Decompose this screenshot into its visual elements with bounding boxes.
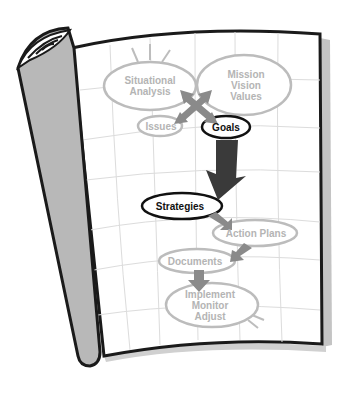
label-line: Implement bbox=[185, 289, 235, 300]
label-line: Adjust bbox=[185, 311, 235, 322]
label-line: Monitor bbox=[185, 300, 235, 311]
label-line: Situational bbox=[124, 75, 175, 86]
label-line: Mission bbox=[227, 69, 264, 80]
label-issues: Issues bbox=[145, 121, 176, 132]
label-action-plans: Action Plans bbox=[226, 228, 287, 239]
label-situational-analysis: Situational Analysis bbox=[124, 75, 175, 97]
label-line: Analysis bbox=[124, 86, 175, 97]
label-strategies: Strategies bbox=[156, 201, 204, 212]
label-line: Vision bbox=[227, 80, 264, 91]
label-mission-vision-values: Mission Vision Values bbox=[227, 69, 264, 102]
label-goals: Goals bbox=[212, 122, 240, 133]
label-implement-monitor-adjust: Implement Monitor Adjust bbox=[185, 289, 235, 322]
label-line: Values bbox=[227, 91, 264, 102]
label-documents: Documents bbox=[168, 256, 222, 267]
